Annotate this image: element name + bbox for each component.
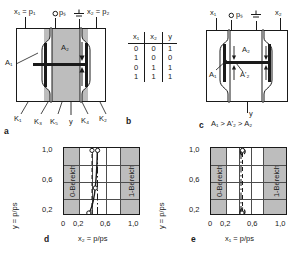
panel-a: x₁ = p₁ pₛ x₂ = p₂ A₂ A₁ <box>0 0 120 135</box>
chart-e-marker-bottom <box>240 211 244 215</box>
chart-d-plot-area: 0-Bereich 1-Bereich <box>63 147 140 215</box>
chart-d-xlabel: x₂ = p/ps <box>78 234 107 243</box>
panel-c-label-y: y <box>249 110 253 118</box>
output-stem-c <box>247 102 248 113</box>
truth-table-header-row: x₁ x₂ y <box>128 32 177 43</box>
port-stem-ps <box>231 20 232 30</box>
port-stem-x2 <box>96 17 97 28</box>
chart-d-letter: d <box>44 234 49 244</box>
panel-b-letter: b <box>126 116 131 126</box>
supply-port-icon <box>228 12 236 20</box>
chart-e-plot-area: 0-Bereich 1-Bereich <box>210 147 287 215</box>
cell-y: 1 <box>162 72 177 82</box>
chart-d: y = p/ps 1,0 0,6 0,2 0-Bereich 1-Bereich… <box>0 137 152 257</box>
panel-c-label-a2: A₂ <box>242 46 250 54</box>
chart-d-ylabel: y = p/ps <box>10 203 19 229</box>
panel-c-label-a1: A₁ <box>209 71 217 79</box>
panel-c-caption: A₁ > A'₂ > A₂ <box>211 120 252 128</box>
panel-a-label-a1: A₁ <box>5 59 13 67</box>
table-row: 0 0 1 <box>128 43 177 53</box>
panel-a-label-a2: A₂ <box>61 44 69 52</box>
leader-a2prime-c <box>235 62 245 74</box>
cell-x2: 1 <box>145 72 163 82</box>
panel-c-label-x1: x₁ <box>210 9 216 17</box>
chart-e-ytick-0.2: 0,2 <box>189 205 199 214</box>
chart-e-ylabel: y = p/ps <box>157 203 166 229</box>
supply-port-icon <box>52 10 60 18</box>
chart-d-curves <box>64 148 140 215</box>
cell-y: 1 <box>162 43 177 53</box>
chart-d-marker-top-left <box>90 148 94 152</box>
truth-table: x₁ x₂ y 0 0 1 1 0 0 0 1 <box>128 32 177 82</box>
panel-a-label-ps: pₛ <box>59 9 66 17</box>
cell-y: 1 <box>162 63 177 73</box>
chart-d-marker-top-right <box>96 148 100 152</box>
port-stem-x2 <box>280 18 281 30</box>
panel-a-label-k5: K₅ <box>50 118 58 126</box>
panel-c-label-ps: pₛ <box>236 11 243 19</box>
panel-a-label-k4: K₄ <box>81 117 89 125</box>
table-row: 1 0 0 <box>128 53 177 63</box>
chart-e-letter: e <box>191 234 196 244</box>
cell-x1: 0 <box>128 43 145 53</box>
table-row: 1 1 1 <box>128 72 177 82</box>
port-stem-x1 <box>25 17 26 28</box>
cell-x2: 0 <box>145 43 163 53</box>
cell-x1: 1 <box>128 53 145 63</box>
chart-e-xlabel: x₁ = p/ps <box>225 234 254 243</box>
force-arrows-a <box>76 40 88 90</box>
chart-d-ytick-0.6: 0,6 <box>42 175 52 184</box>
panel-a-label-k3: K₃ <box>34 118 42 126</box>
chart-d-marker-mid <box>93 186 97 190</box>
chart-e-curves <box>211 148 287 215</box>
panel-a-label-x2: x₂ = p₂ <box>87 8 109 16</box>
panel-a-label-x1: x₁ = p₁ <box>14 8 36 16</box>
chart-e-xtick-0.6: 0,6 <box>247 219 257 228</box>
truth-table-header-y: y <box>162 32 177 43</box>
chart-d-xtick-1.0: 1,0 <box>128 219 138 228</box>
panel-a-letter: a <box>4 126 9 136</box>
chart-d-xtick-0.2: 0,2 <box>73 219 83 228</box>
panel-c: x₁ pₛ x₂ A₂ A'₂ A₁ y c A₁ <box>192 0 299 135</box>
chart-e: y = p/ps 1,0 0,6 0,2 0-Bereich 1-Bereich… <box>147 137 299 257</box>
chart-d-marker-low <box>87 211 91 215</box>
chart-e-xtick-1.0: 1,0 <box>275 219 285 228</box>
port-stem-exhaust <box>79 19 80 28</box>
cell-x1: 1 <box>128 72 145 82</box>
table-row: 0 1 1 <box>128 63 177 73</box>
port-stem-ps <box>55 18 56 28</box>
bottom-leaders-a <box>14 100 110 116</box>
chart-e-xtick-0: 0 <box>208 219 212 228</box>
port-stem-x1 <box>216 18 217 30</box>
chart-d-ytick-1.0: 1,0 <box>42 145 52 154</box>
cell-x2: 0 <box>145 53 163 63</box>
panel-c-letter: c <box>199 120 204 130</box>
panel-a-label-k2: K₂ <box>99 115 107 123</box>
panel-a-label-k1: K₁ <box>14 115 22 123</box>
panel-b: x₁ x₂ y 0 0 1 1 0 0 0 1 <box>120 0 192 135</box>
panel-a-label-y: y <box>69 118 73 126</box>
truth-table-header-x1: x₁ <box>128 32 145 43</box>
chart-d-xtick-0.6: 0,6 <box>100 219 110 228</box>
cell-y: 0 <box>162 53 177 63</box>
chart-e-ytick-0.6: 0,6 <box>189 175 199 184</box>
chart-e-ytick-1.0: 1,0 <box>189 145 199 154</box>
chart-d-xtick-0: 0 <box>61 219 65 228</box>
chart-e-xtick-0.2: 0,2 <box>220 219 230 228</box>
chart-d-switching-curve <box>89 150 98 213</box>
cell-x1: 0 <box>128 63 145 73</box>
panel-c-label-x2: x₂ <box>275 9 282 17</box>
leader-a1 <box>16 52 40 66</box>
chart-e-marker-top <box>240 148 244 152</box>
leader-a1-c <box>216 58 230 72</box>
chart-d-ytick-0.2: 0,2 <box>42 205 52 214</box>
cell-x2: 1 <box>145 63 163 73</box>
truth-table-header-x2: x₂ <box>145 32 163 43</box>
port-stem-exhaust <box>256 21 257 30</box>
